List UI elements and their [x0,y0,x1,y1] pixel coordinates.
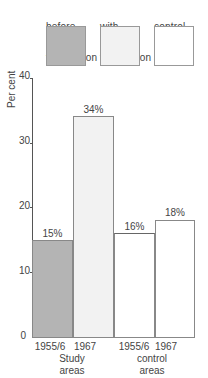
y-tick-0: 0 [6,330,26,341]
x-tick-label: 1955/6 [26,341,74,352]
group-label-line: Study [50,353,94,365]
legend-swatch-with-fluoridation [100,26,140,66]
bar-value-label: 18% [155,207,195,218]
bar-study-1967 [73,116,114,338]
group-label-study-areas: Study areas [50,353,94,377]
bar-value-label: 34% [73,104,114,115]
y-tick-30: 30 [10,135,30,146]
group-label-control-areas: control areas [130,353,174,377]
y-tick-40: 40 [10,70,30,81]
group-label-line: control [130,353,174,365]
bar-control-1967 [155,220,195,338]
y-tick-20: 20 [10,200,30,211]
bar-value-label: 16% [114,221,155,232]
group-label-line: areas [50,365,94,377]
y-tick-mark [30,143,32,144]
y-tick-mark [30,207,32,208]
legend-swatch-control-areas [154,26,194,66]
group-label-line: areas [130,365,174,377]
bar-control-1955 [114,233,155,338]
bar-value-label: 15% [32,228,73,239]
legend-swatch-before-fluoridation [46,26,86,66]
bar-study-1955 [32,240,73,338]
y-tick-mark [30,78,32,79]
y-tick-10: 10 [10,265,30,276]
x-tick-label: 1967 [151,341,181,352]
x-tick-label: 1967 [70,341,100,352]
